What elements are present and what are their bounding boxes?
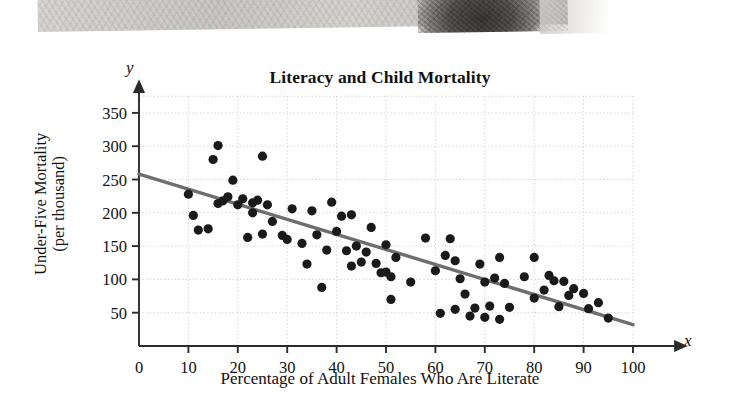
data-point [194, 226, 203, 235]
data-point [362, 247, 371, 256]
data-point [268, 217, 277, 226]
axes [139, 91, 676, 346]
x-tick-label: 90 [575, 358, 592, 377]
data-point [243, 233, 252, 242]
scatterplot-figure: Literacy and Child Mortality Under-Five … [0, 34, 732, 408]
data-point [460, 289, 469, 298]
y-tick-label: 350 [102, 104, 127, 123]
data-point [520, 272, 529, 281]
data-point [307, 206, 316, 215]
data-point [322, 245, 331, 254]
data-point [228, 176, 237, 185]
data-point [248, 208, 257, 217]
data-point [327, 198, 336, 207]
x-tick-label: 80 [526, 358, 543, 377]
x-tick-label: 0 [135, 358, 143, 377]
x-tick-label: 10 [180, 358, 197, 377]
data-point [530, 293, 539, 302]
y-tick-label: 200 [102, 204, 127, 223]
data-point [288, 204, 297, 213]
data-point [209, 155, 218, 164]
data-point [480, 313, 489, 322]
x-tick-label: 30 [279, 358, 296, 377]
data-point [332, 227, 341, 236]
data-point [238, 194, 247, 203]
data-point [391, 253, 400, 262]
data-point [342, 246, 351, 255]
data-point [495, 253, 504, 262]
data-point [253, 196, 262, 205]
data-point [470, 303, 479, 312]
data-point [579, 289, 588, 298]
data-point [204, 224, 213, 233]
data-point [302, 259, 311, 268]
data-point [441, 251, 450, 260]
x-tick-label: 70 [477, 358, 494, 377]
data-point [559, 277, 568, 286]
data-point [604, 313, 613, 322]
data-point [352, 242, 361, 251]
data-point [347, 261, 356, 270]
data-point [584, 304, 593, 313]
data-point [539, 285, 548, 294]
data-point [347, 210, 356, 219]
data-point [386, 272, 395, 281]
photograph-edge-fade [539, 0, 610, 34]
data-point [495, 315, 504, 324]
y-tick-label: 150 [102, 237, 127, 256]
data-point [357, 257, 366, 266]
data-point [549, 276, 558, 285]
y-tick-label: 250 [102, 171, 127, 190]
x-tick-label: 20 [230, 358, 247, 377]
x-tick-label: 100 [621, 358, 646, 377]
data-point [263, 200, 272, 209]
plot-area: 5010015020025030035001020304050607080901… [0, 34, 732, 408]
data-point [451, 256, 460, 265]
data-point [258, 152, 267, 161]
data-point [456, 274, 465, 283]
data-point [372, 259, 381, 268]
x-tick-label: 40 [328, 358, 345, 377]
data-point [337, 212, 346, 221]
data-point [451, 305, 460, 314]
y-tick-label: 300 [102, 137, 127, 156]
data-point [485, 301, 494, 310]
data-point [367, 223, 376, 232]
data-point [317, 283, 326, 292]
data-point [297, 239, 306, 248]
data-point [189, 211, 198, 220]
data-point [594, 298, 603, 307]
data-point [475, 259, 484, 268]
data-point [406, 277, 415, 286]
data-points [184, 141, 613, 324]
data-point [421, 234, 430, 243]
data-point [312, 230, 321, 239]
data-point [480, 277, 489, 286]
data-point [213, 141, 222, 150]
data-point [283, 235, 292, 244]
y-tick-label: 50 [111, 304, 128, 323]
data-point [184, 190, 193, 199]
data-point [465, 311, 474, 320]
x-tick-label: 60 [427, 358, 444, 377]
data-point [386, 295, 395, 304]
data-point [554, 302, 563, 311]
page-photograph [0, 0, 732, 34]
data-point [500, 279, 509, 288]
data-point [381, 240, 390, 249]
data-point [505, 303, 514, 312]
data-point [446, 234, 455, 243]
tick-marks-and-labels: 5010015020025030035001020304050607080901… [102, 104, 645, 377]
y-tick-label: 100 [102, 270, 127, 289]
data-point [490, 273, 499, 282]
data-point [431, 266, 440, 275]
data-point [436, 309, 445, 318]
data-point [223, 192, 232, 201]
data-point [258, 230, 267, 239]
data-point [569, 284, 578, 293]
x-tick-label: 50 [378, 358, 395, 377]
data-point [530, 253, 539, 262]
